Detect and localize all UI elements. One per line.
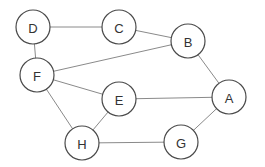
node-d: D xyxy=(16,10,50,44)
node-label: D xyxy=(28,21,37,36)
node-c: C xyxy=(102,10,136,44)
node-f: F xyxy=(20,58,54,92)
node-label: H xyxy=(77,137,86,152)
node-label: C xyxy=(114,21,123,36)
node-label: G xyxy=(176,136,186,151)
node-e: E xyxy=(102,82,136,116)
node-a: A xyxy=(212,80,246,114)
node-label: E xyxy=(115,93,124,108)
node-g: G xyxy=(164,125,198,159)
node-h: H xyxy=(65,126,99,160)
node-label: F xyxy=(33,69,41,84)
edge-f-b xyxy=(37,41,188,75)
nodes-layer: DCBFEAHG xyxy=(16,10,246,160)
graph-diagram: DCBFEAHG xyxy=(0,0,265,167)
node-label: A xyxy=(225,91,234,106)
node-b: B xyxy=(171,24,205,58)
node-label: B xyxy=(184,35,193,50)
